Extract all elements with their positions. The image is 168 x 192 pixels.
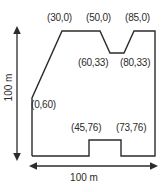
vertex-label-85-0: (85,0) — [125, 12, 150, 23]
vertex-label-50-0: (50,0) — [86, 12, 111, 23]
vertex-label-30-0: (30,0) — [47, 12, 72, 23]
vertex-label-45-76: (45,76) — [71, 122, 101, 133]
vertex-label-60-33: (60,33) — [78, 57, 108, 68]
vertical-dimension-label: 100 m — [3, 68, 14, 108]
horizontal-dimension-label: 100 m — [62, 172, 106, 183]
plot-outline-path — [32, 31, 155, 156]
vertex-label-73-76: (73,76) — [116, 122, 146, 133]
vertex-label-80-33: (80,33) — [120, 57, 150, 68]
horizontal-dimension-arrow — [29, 162, 158, 170]
diagram-canvas: (30,0) (50,0) (85,0) (60,33) (80,33) (0,… — [0, 0, 168, 192]
vertical-dimension-arrow — [13, 26, 21, 161]
polygon-figure — [0, 0, 168, 192]
vertex-label-0-60: (0,60) — [31, 99, 56, 110]
